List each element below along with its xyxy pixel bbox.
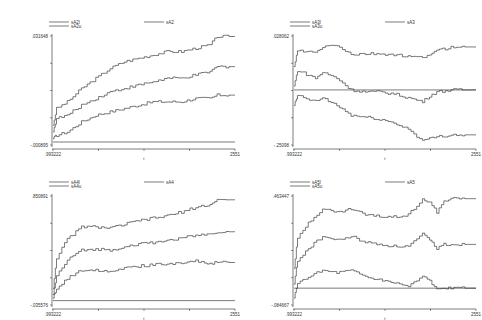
legend-label: sA5u: [312, 184, 323, 189]
y-tick-max: .028062: [273, 34, 290, 39]
series-line-sA3u: [294, 45, 476, 66]
chart-panel-sa2: sA2lsA2usA2.031648-.000895.9932222551t: [0, 0, 241, 160]
series-line-sA4l: [53, 260, 235, 298]
series-line-sA2u: [53, 35, 235, 125]
x-tick-min: .993222: [45, 312, 62, 317]
x-tick-min: .993222: [45, 152, 62, 157]
series-line-sA5u: [294, 197, 476, 268]
legend-label: sA3: [407, 20, 415, 25]
chart-panel-sa3: sA3lsA3usA3.028062-.25098.9932222551t: [241, 0, 482, 160]
series-group: [53, 199, 235, 300]
series-line-sA5l: [294, 270, 476, 298]
x-tick-min: .993222: [286, 152, 303, 157]
axes: .850891-.035576.9932222551t: [30, 194, 240, 320]
series-group: [294, 197, 476, 298]
series-group: [294, 45, 476, 140]
y-tick-min: -.25098: [274, 143, 290, 148]
y-tick-min: -.084667: [271, 303, 289, 308]
legend: sA3lsA3usA3: [290, 20, 415, 29]
legend-label: sA3u: [312, 24, 323, 29]
series-line-sA2: [53, 66, 235, 132]
chart-panel-sa4: sA4lsA4usA4.850891-.035576.9932222551t: [0, 160, 241, 320]
legend: sA5lsA5usA5: [290, 180, 415, 189]
x-tick-max: 2551: [471, 312, 482, 317]
series-line-sA5: [294, 233, 476, 284]
y-tick-max: .463447: [273, 194, 290, 199]
legend-label: sA4: [166, 180, 174, 185]
series-line-sA4: [53, 232, 235, 295]
legend-label: sA4u: [71, 184, 82, 189]
series-line-sA2l: [53, 94, 235, 139]
x-tick-max: 2551: [230, 152, 241, 157]
legend: sA2lsA2usA2: [49, 20, 174, 29]
x-tick-max: 2551: [230, 312, 241, 317]
legend-label: sA2u: [71, 24, 82, 29]
x-tick-min: .993222: [286, 312, 303, 317]
series-line-sA3: [294, 72, 476, 103]
axes: .031648-.000895.9932222551t: [30, 34, 240, 161]
axes: .028062-.25098.9932222551t: [273, 34, 482, 161]
series-line-sA3l: [294, 95, 476, 140]
series-group: [53, 35, 235, 142]
chart-panel-sa5: sA5lsA5usA5.463447-.084667.9932222551t: [241, 160, 482, 320]
y-tick-max: .031648: [32, 34, 49, 39]
legend-label: sA2: [166, 20, 174, 25]
y-tick-min: -.000895: [30, 143, 48, 148]
series-line-sA4u: [53, 199, 235, 288]
legend-label: sA5: [407, 180, 415, 185]
x-tick-max: 2551: [471, 152, 482, 157]
legend: sA4lsA4usA4: [49, 180, 174, 189]
y-tick-min: -.035576: [30, 303, 48, 308]
y-tick-max: .850891: [32, 194, 49, 199]
